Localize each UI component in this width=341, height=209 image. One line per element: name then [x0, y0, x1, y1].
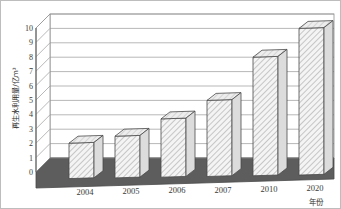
y-tick-6: 6 [29, 82, 33, 91]
bar-side-2005 [140, 128, 149, 177]
bar-2007 [207, 93, 241, 177]
y-tick-1: 1 [29, 154, 33, 163]
bar-front-2007 [207, 100, 232, 177]
y-tick-5: 5 [29, 96, 33, 105]
bar-front-2004 [69, 142, 94, 178]
bar-side-2010 [278, 49, 287, 175]
bar-2004 [69, 135, 103, 178]
chart-canvas: 0 1 2 3 4 5 6 7 8 9 10 [0, 0, 341, 209]
y-tick-7: 7 [29, 67, 33, 76]
x-tick-2006: 2006 [169, 185, 186, 195]
bar-front-2020 [299, 28, 324, 176]
y-tick-8: 8 [29, 53, 33, 62]
x-tick-2004: 2004 [77, 187, 95, 197]
bar-side-2004 [94, 135, 103, 177]
y-tick-4: 4 [29, 110, 33, 119]
x-tick-2005: 2005 [123, 186, 140, 196]
y-tick-9: 9 [29, 38, 33, 47]
bar-side-2007 [232, 93, 241, 176]
bar-side-2006 [186, 111, 195, 176]
bar-2006 [161, 111, 195, 177]
y-tick-3: 3 [29, 125, 33, 134]
bar-front-2010 [253, 56, 278, 175]
bar-front-2006 [161, 118, 186, 177]
y-tick-0: 0 [29, 168, 33, 177]
x-axis-title: 年份 [309, 197, 324, 207]
bar-2020 [299, 21, 333, 176]
x-tick-2010: 2010 [261, 184, 278, 194]
y-tick-10: 10 [25, 24, 33, 33]
bar-chart-figure: 0 1 2 3 4 5 6 7 8 9 10 [0, 0, 341, 209]
y-tick-2: 2 [29, 139, 33, 148]
bar-front-2005 [115, 135, 140, 178]
bar-2005 [115, 128, 149, 178]
y-axis-title: 再生水利用量/亿m³ [11, 67, 20, 128]
bar-2010 [253, 49, 287, 175]
x-tick-2007: 2007 [215, 185, 232, 195]
bar-side-2020 [324, 21, 333, 175]
x-tick-2020: 2020 [307, 183, 324, 193]
